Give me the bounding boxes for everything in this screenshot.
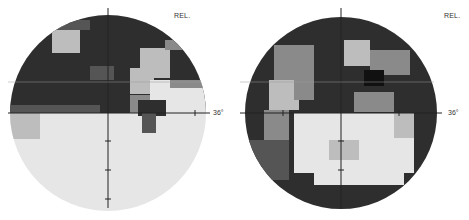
plot-label: REL. (174, 12, 190, 19)
right-field-map (234, 0, 468, 220)
visual-field-plot-right: REL. 36° (234, 0, 468, 220)
eccentricity-label: 36° (213, 109, 224, 116)
plot-label: REL. (444, 12, 460, 19)
visual-field-plot-left: REL. 36° (0, 0, 234, 220)
eccentricity-label: 36° (448, 109, 459, 116)
left-field-map (0, 0, 234, 220)
